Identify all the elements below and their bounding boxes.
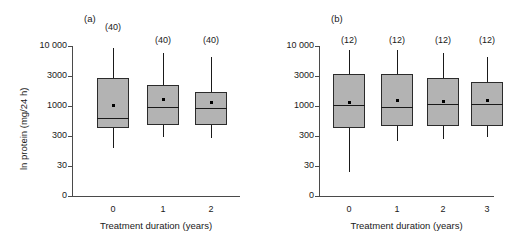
y-tick-mark-30 [315, 166, 319, 167]
median-line-a-2 [195, 108, 227, 109]
mean-dot-a-1 [162, 98, 165, 101]
y-tick-mark-1000 [315, 106, 319, 107]
sample-size-label-b-0: (12) [324, 35, 374, 45]
sample-size-label-a-2: (40) [186, 35, 236, 45]
panel-b: 10 00030001000300300(b)(12)0(12)1(12)2(1… [249, 0, 499, 251]
y-tick-label-10000: 10 000 [22, 40, 67, 50]
mean-dot-b-3 [486, 99, 489, 102]
whisker-upper-b-1 [397, 50, 398, 74]
panel-a: 10 00030001000300300(a)(40)0(40)1(40)2Tr… [0, 0, 250, 251]
mean-dot-b-2 [442, 100, 445, 103]
sample-size-label-b-1: (12) [372, 35, 422, 45]
x-axis-a [72, 196, 240, 197]
y-axis-b [319, 46, 320, 196]
box-a-0 [97, 78, 129, 128]
whisker-upper-b-3 [487, 57, 488, 82]
whisker-upper-a-2 [211, 57, 212, 92]
y-tick-mark-10000 [315, 46, 319, 47]
y-tick-label-10000: 10 000 [269, 40, 314, 50]
y-tick-mark-300 [315, 136, 319, 137]
whisker-lower-a-1 [163, 125, 164, 137]
sample-size-label-b-2: (12) [418, 35, 468, 45]
y-tick-mark-3000 [315, 76, 319, 77]
whisker-lower-a-0 [113, 128, 114, 148]
whisker-upper-b-2 [443, 53, 444, 78]
x-tick-label-b-0: 0 [329, 204, 369, 214]
y-tick-label-3000: 3000 [22, 70, 67, 80]
y-tick-label-3000: 3000 [269, 70, 314, 80]
y-tick-mark-0 [315, 196, 319, 197]
x-tick-label-a-1: 1 [143, 204, 183, 214]
x-tick-label-a-2: 2 [191, 204, 231, 214]
whisker-lower-b-0 [349, 128, 350, 172]
mean-dot-a-0 [112, 104, 115, 107]
y-tick-mark-10000 [68, 46, 72, 47]
y-tick-mark-0 [68, 196, 72, 197]
y-tick-label-1000: 1000 [269, 100, 314, 110]
x-axis-label-b: Treatment duration (years) [317, 220, 497, 231]
median-line-b-0 [333, 105, 365, 106]
whisker-upper-a-0 [113, 48, 114, 78]
whisker-upper-a-1 [163, 53, 164, 85]
median-line-b-3 [471, 104, 503, 105]
sample-size-label-a-0: (40) [88, 22, 138, 32]
y-tick-label-0: 0 [269, 190, 314, 200]
x-tick-label-b-2: 2 [423, 204, 463, 214]
y-tick-label-0: 0 [22, 190, 67, 200]
box-a-1 [147, 85, 179, 125]
median-line-a-1 [147, 107, 179, 108]
median-line-b-2 [427, 104, 459, 105]
y-tick-mark-1000 [68, 106, 72, 107]
x-axis-b [319, 196, 494, 197]
y-tick-mark-300 [68, 136, 72, 137]
median-line-a-0 [97, 118, 129, 119]
y-axis-title: ln protein (mg/24 h) [18, 88, 29, 170]
whisker-lower-b-3 [487, 126, 488, 137]
median-line-b-1 [381, 107, 413, 108]
y-tick-label-300: 300 [269, 130, 314, 140]
x-tick-label-a-0: 0 [93, 204, 133, 214]
mean-dot-a-2 [210, 101, 213, 104]
y-axis-a [72, 46, 73, 196]
mean-dot-b-1 [396, 99, 399, 102]
sample-size-label-a-1: (40) [138, 35, 188, 45]
y-tick-mark-3000 [68, 76, 72, 77]
whisker-lower-b-2 [443, 126, 444, 139]
x-axis-label-a: Treatment duration (years) [66, 220, 246, 231]
mean-dot-b-0 [348, 101, 351, 104]
whisker-upper-b-0 [349, 50, 350, 74]
y-tick-mark-30 [68, 166, 72, 167]
sample-size-label-b-3: (12) [462, 35, 507, 45]
y-tick-label-30: 30 [269, 160, 314, 170]
panel-tag-b: (b) [331, 13, 343, 24]
x-tick-label-b-3: 3 [467, 204, 507, 214]
x-tick-label-b-1: 1 [377, 204, 417, 214]
whisker-lower-a-2 [211, 125, 212, 138]
whisker-lower-b-1 [397, 126, 398, 141]
